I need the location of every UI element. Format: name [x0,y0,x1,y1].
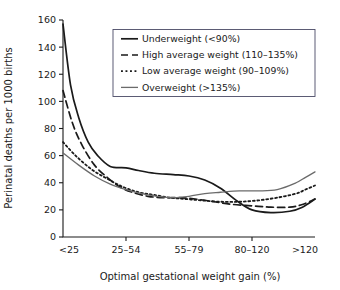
legend-label-1: High average weight (110–135%) [142,49,298,60]
x-tick-label: 55–79 [175,244,204,255]
y-tick-label: 160 [38,14,56,25]
legend-label-3: Overweight (>135%) [142,82,240,93]
x-tick-label: >120 [292,244,318,255]
y-tick-label: 0 [50,231,56,242]
chart-legend: Underweight (<90%)High average weight (1… [113,30,315,97]
y-tick-label: 140 [38,42,56,53]
y-axis-title: Perinatal deaths per 1000 births [3,47,14,209]
perinatal-deaths-line-chart: 020406080100120140160 <2525–5455–7980–12… [0,0,340,290]
legend-label-2: Low average weight (90–109%) [142,65,289,76]
y-tick-label: 100 [38,96,56,107]
x-tick-label: 25–54 [112,244,141,255]
x-tick-label: 80–120 [235,244,270,255]
y-tick-label: 80 [44,123,56,134]
x-axis-ticks: <2525–5455–7980–120>120 [59,237,318,255]
y-axis-ticks: 020406080100120140160 [38,14,63,242]
x-tick-label: <25 [59,244,79,255]
x-axis-title: Optimal gestational weight gain (%) [100,271,281,282]
y-tick-label: 20 [44,204,56,215]
legend-label-0: Underweight (<90%) [142,33,240,44]
y-tick-label: 120 [38,69,56,80]
y-tick-label: 40 [44,177,56,188]
y-tick-label: 60 [44,150,56,161]
chart-figure: 020406080100120140160 <2525–5455–7980–12… [0,0,340,290]
